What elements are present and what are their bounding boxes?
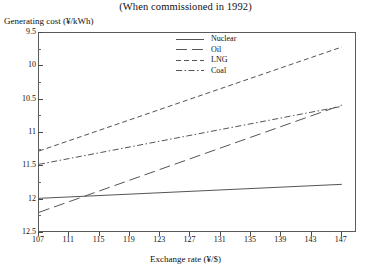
x-tick-label: 123: [153, 236, 165, 244]
x-tick-label: 147: [335, 236, 347, 244]
y-tick-mark: [38, 132, 43, 133]
x-tick-label: 107: [32, 236, 44, 244]
y-tick-minor-mark: [38, 215, 41, 216]
x-tick-mark: [220, 232, 221, 236]
x-axis-label: Exchange rate (¥/$): [0, 254, 371, 264]
x-tick-mark: [99, 232, 100, 236]
x-tick-label: 135: [244, 236, 256, 244]
x-tick-mark: [189, 232, 190, 236]
x-tick-mark: [341, 232, 342, 236]
legend-item-oil: Oil: [176, 45, 262, 55]
x-tick-mark: [250, 232, 251, 236]
x-tick-label: 127: [183, 236, 195, 244]
legend-item-coal: Coal: [176, 66, 262, 76]
legend-item-nuclear: Nuclear: [176, 34, 262, 44]
x-tick-label: 119: [123, 236, 135, 244]
legend-label: Oil: [211, 46, 221, 54]
x-tick-mark: [38, 232, 39, 236]
y-tick-label: 11.5: [6, 161, 36, 169]
chart-figure: (When commissioned in 1992) Generating c…: [0, 0, 371, 273]
legend-label: LNG: [211, 56, 227, 64]
y-tick-minor-mark: [38, 182, 41, 183]
x-tick-label: 111: [63, 236, 74, 244]
y-tick-mark: [38, 165, 43, 166]
y-tick-minor-mark: [38, 149, 41, 150]
y-tick-label: 10: [6, 61, 36, 69]
y-tick-minor-mark: [38, 49, 41, 50]
x-tick-mark: [311, 232, 312, 236]
y-tick-mark: [38, 65, 43, 66]
legend-swatch-nuclear-icon: [176, 35, 204, 44]
chart-legend: NuclearOilLNGCoal: [176, 34, 262, 76]
series-line-oil: [39, 105, 342, 212]
legend-label: Nuclear: [211, 35, 236, 43]
y-tick-minor-mark: [38, 82, 41, 83]
x-tick-mark: [129, 232, 130, 236]
x-tick-label: 131: [214, 236, 226, 244]
legend-item-lng: LNG: [176, 55, 262, 65]
y-tick-label: 12: [6, 195, 36, 203]
chart-title: (When commissioned in 1992): [0, 1, 371, 12]
legend-label: Coal: [211, 67, 226, 75]
y-tick-label: 11: [6, 128, 36, 136]
y-tick-mark: [38, 32, 43, 33]
y-tick-label: 9.5: [6, 28, 36, 36]
x-tick-mark: [280, 232, 281, 236]
y-tick-mark: [38, 199, 43, 200]
x-tick-mark: [68, 232, 69, 236]
y-axis-tick-labels: 12.51211.51110.5109.5: [0, 0, 36, 273]
legend-swatch-lng-icon: [176, 56, 204, 65]
y-tick-label: 10.5: [6, 95, 36, 103]
y-tick-mark: [38, 99, 43, 100]
x-tick-label: 143: [305, 236, 317, 244]
y-tick-minor-mark: [38, 115, 41, 116]
legend-swatch-coal-icon: [176, 66, 204, 75]
x-tick-label: 139: [274, 236, 286, 244]
x-tick-label: 115: [93, 236, 105, 244]
x-tick-mark: [159, 232, 160, 236]
legend-swatch-oil-icon: [176, 45, 204, 54]
